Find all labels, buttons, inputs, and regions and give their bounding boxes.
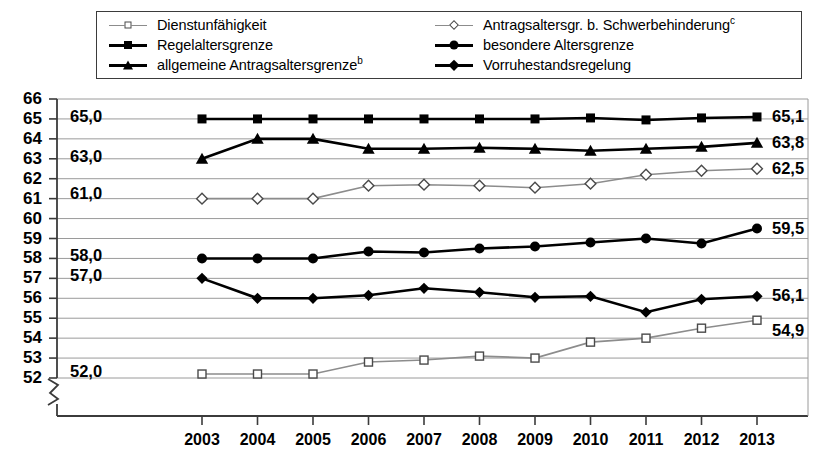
filled-square-marker <box>697 113 706 122</box>
open-square-icon <box>107 16 149 34</box>
open-diamond-marker <box>363 180 374 191</box>
filled-square-icon <box>107 36 149 54</box>
filled-circle-marker <box>697 238 707 248</box>
x-axis-tick-label: 2008 <box>451 432 509 448</box>
y-axis-tick-label: 58 <box>8 249 42 266</box>
legend-column-right: Antragsaltersgr. b. Schwerbehinderungc b… <box>433 15 798 75</box>
filled-diamond-marker <box>418 283 429 294</box>
x-axis-tick-label: 2007 <box>395 432 453 448</box>
y-axis-tick-label: 59 <box>8 230 42 247</box>
series-end-value-label: 54,9 <box>772 322 804 338</box>
series-end-value-label: 56,1 <box>772 287 804 303</box>
x-axis-tick-label: 2004 <box>229 432 287 448</box>
open-diamond-marker <box>197 193 208 204</box>
x-axis-tick-label: 2005 <box>284 432 342 448</box>
y-axis-tick-label: 55 <box>8 309 42 326</box>
series-start-value-label: 52,0 <box>70 363 102 379</box>
y-axis-tick-label: 56 <box>8 289 42 306</box>
y-axis-tick-label: 64 <box>8 130 42 147</box>
chart-plot-area: 666564636261605958575655545352 200320042… <box>0 86 830 465</box>
series-start-value-label: 58,0 <box>70 247 102 263</box>
x-axis-tick-label: 2006 <box>340 432 398 448</box>
filled-circle-marker <box>475 243 485 253</box>
y-axis-tick-label: 66 <box>8 90 42 107</box>
filled-diamond-marker <box>252 293 263 304</box>
filled-diamond-marker <box>196 273 207 284</box>
filled-square-marker <box>420 114 429 123</box>
legend-item-allgemeine-antragsaltersgrenze[interactable]: allgemeine Antragsaltersgrenzeb <box>107 55 437 75</box>
legend-item-besondere-altersgrenze[interactable]: besondere Altersgrenze <box>433 35 798 55</box>
filled-circle-marker <box>197 253 207 263</box>
filled-square-marker <box>475 114 484 123</box>
filled-circle-marker <box>419 247 429 257</box>
filled-diamond-marker <box>529 292 540 303</box>
x-axis-tick-label: 2011 <box>617 432 675 448</box>
open-square-marker <box>753 316 761 324</box>
legend-label: besondere Altersgrenze <box>483 36 634 54</box>
series-start-value-label: 57,0 <box>70 267 102 283</box>
series-end-value-label: 63,8 <box>772 134 804 150</box>
x-axis-tick-label: 2009 <box>506 432 564 448</box>
series-start-value-label: 61,0 <box>70 185 102 201</box>
cropped-header-artifact <box>120 0 380 7</box>
series-4 <box>196 273 762 318</box>
filled-circle-marker <box>586 237 596 247</box>
filled-triangle-icon <box>107 56 149 74</box>
axis-break-zigzag-icon <box>48 379 58 405</box>
x-axis-tick-label: 2012 <box>673 432 731 448</box>
y-axis-tick-label: 53 <box>8 349 42 366</box>
filled-circle-marker <box>530 241 540 251</box>
legend-item-vorruhestandsregelung[interactable]: Vorruhestandsregelung <box>433 55 798 75</box>
filled-square-marker <box>253 114 262 123</box>
filled-square-marker <box>586 113 595 122</box>
series-2 <box>197 163 763 204</box>
filled-diamond-marker <box>696 294 707 305</box>
series-start-value-label: 65,0 <box>70 108 102 124</box>
y-axis-tick-label: 52 <box>8 369 42 386</box>
open-square-marker <box>642 334 650 342</box>
legend-label-text: allgemeine Antragsaltersgrenze <box>157 57 357 73</box>
series-5 <box>198 316 761 378</box>
open-diamond-marker <box>585 178 596 189</box>
open-diamond-marker <box>696 165 707 176</box>
legend-item-dienstunfaehigkeit[interactable]: Dienstunfähigkeit <box>107 15 437 35</box>
filled-square-marker <box>364 114 373 123</box>
filled-square-marker <box>198 114 207 123</box>
y-axis-tick-label: 62 <box>8 170 42 187</box>
filled-circle-icon <box>433 36 475 54</box>
legend-item-antragsaltersgr-schwerbehinderung[interactable]: Antragsaltersgr. b. Schwerbehinderungc <box>433 15 798 35</box>
open-diamond-icon <box>433 16 475 34</box>
open-square-marker <box>698 324 706 332</box>
open-square-marker <box>254 370 262 378</box>
open-square-marker <box>587 338 595 346</box>
y-axis-tick-label: 65 <box>8 110 42 127</box>
filled-circle-marker <box>364 246 374 256</box>
x-axis-tick-label: 2010 <box>562 432 620 448</box>
filled-diamond-marker <box>640 307 651 318</box>
filled-circle-marker <box>308 253 318 263</box>
open-diamond-marker <box>474 180 485 191</box>
filled-diamond-marker <box>585 291 596 302</box>
line-chart-svg <box>0 86 830 465</box>
open-square-marker <box>531 354 539 362</box>
open-square-marker <box>198 370 206 378</box>
series-start-value-label: 63,0 <box>70 148 102 164</box>
y-axis-tick-label: 54 <box>8 329 42 346</box>
filled-square-marker <box>531 114 540 123</box>
filled-square-marker <box>753 112 762 121</box>
filled-square-marker <box>309 114 318 123</box>
legend-label: Regelaltersgrenze <box>157 36 273 54</box>
legend-label: allgemeine Antragsaltersgrenzeb <box>157 56 363 74</box>
legend-footnote-marker: b <box>357 55 362 66</box>
open-square-marker <box>309 370 317 378</box>
y-axis-tick-label: 57 <box>8 269 42 286</box>
chart-page: Dienstunfähigkeit Regelaltersgrenze allg… <box>0 0 830 465</box>
open-diamond-marker <box>308 193 319 204</box>
filled-circle-marker <box>641 234 651 244</box>
open-diamond-marker <box>252 193 263 204</box>
filled-diamond-icon <box>433 56 475 74</box>
legend-item-regelaltersgrenze[interactable]: Regelaltersgrenze <box>107 35 437 55</box>
legend-label: Vorruhestandsregelung <box>483 56 631 74</box>
open-diamond-marker <box>752 163 763 174</box>
series-end-value-label: 62,5 <box>772 160 804 176</box>
